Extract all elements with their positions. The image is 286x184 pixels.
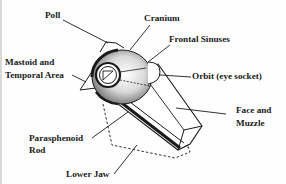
label-lower-jaw: Lower Jaw bbox=[66, 169, 109, 180]
leader-mastoid bbox=[72, 75, 86, 82]
label-frontal-sinuses: Frontal Sinuses bbox=[169, 34, 230, 45]
leader-cranium bbox=[130, 25, 150, 50]
label-parasphenoid-line1: Parasphenoid bbox=[29, 133, 83, 144]
leader-poll bbox=[63, 20, 108, 43]
leader-frontal bbox=[148, 45, 170, 62]
label-face-line1: Face and bbox=[236, 105, 271, 116]
leader-parasphenoid bbox=[92, 112, 128, 138]
label-parasphenoid-line2: Rod bbox=[29, 145, 45, 156]
label-orbit: Orbit (eye socket) bbox=[192, 71, 262, 82]
label-face-line2: Muzzle bbox=[236, 118, 265, 129]
skull-drawing bbox=[0, 0, 286, 184]
label-cranium: Cranium bbox=[144, 13, 180, 24]
leader-lower-jaw bbox=[114, 145, 137, 174]
label-poll: Poll bbox=[45, 10, 60, 21]
label-mastoid-line1: Mastoid and bbox=[5, 57, 54, 68]
label-mastoid-line2: Temporal Area bbox=[5, 70, 64, 81]
